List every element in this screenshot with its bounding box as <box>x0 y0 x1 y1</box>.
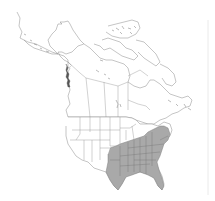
canada <box>66 20 192 124</box>
range-map <box>0 0 215 201</box>
alaska <box>17 12 84 68</box>
